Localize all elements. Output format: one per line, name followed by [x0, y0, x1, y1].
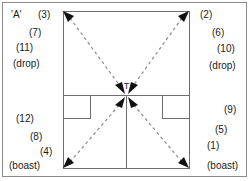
t-position-label: T — [124, 81, 130, 91]
diagram-canvas: 'A' (3) (7) (11) (drop) (2) (6) (10) (dr… — [0, 0, 251, 181]
left-service-box — [64, 96, 91, 119]
court-diagram: T — [0, 0, 251, 181]
right-service-box — [163, 96, 190, 119]
